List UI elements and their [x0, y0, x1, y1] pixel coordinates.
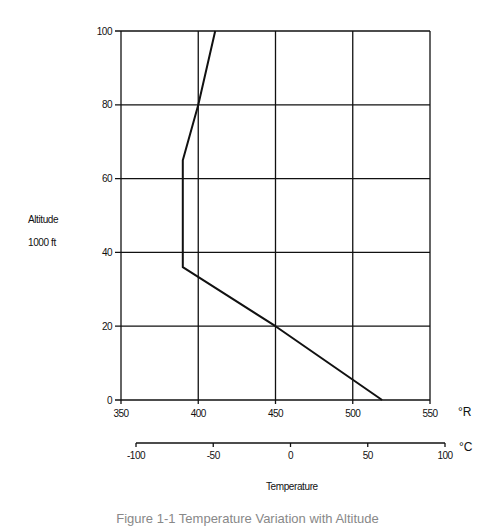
x-tick-label: 550 [422, 408, 438, 419]
celsius-unit-label: °C [459, 440, 472, 454]
celsius-tick-label: -100 [127, 450, 146, 461]
y-tick-label: 40 [102, 247, 113, 258]
y-tick-label: 0 [107, 395, 113, 406]
x-tick-label: 500 [345, 408, 361, 419]
x-axis-title: Temperature [266, 481, 318, 492]
celsius-tick-label: -50 [207, 450, 221, 461]
rankine-unit-label: °R [458, 405, 471, 419]
y-axis-title: Altitude [28, 214, 58, 225]
celsius-tick-label: 50 [363, 450, 374, 461]
y-tick-label: 60 [102, 173, 113, 184]
y-tick-label: 20 [102, 321, 113, 332]
x-tick-label: 450 [268, 408, 284, 419]
x-tick-label: 400 [191, 408, 207, 419]
celsius-tick-label: 0 [288, 450, 294, 461]
x-tick-label: 350 [113, 408, 129, 419]
y-tick-label: 100 [97, 26, 113, 37]
celsius-tick-label: 100 [437, 450, 453, 461]
figure-caption: Figure 1-1 Temperature Variation with Al… [0, 511, 495, 526]
y-tick-label: 80 [102, 99, 113, 110]
y-axis-unit: 1000 ft [28, 237, 56, 248]
